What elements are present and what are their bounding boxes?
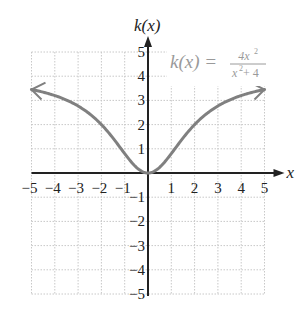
- x-tick-label: −4: [45, 180, 61, 196]
- y-tick-label: −4: [129, 262, 145, 278]
- x-tick-label: −2: [91, 180, 107, 196]
- formula-denominator: x: [231, 66, 238, 80]
- x-tick-label: 2: [191, 180, 199, 196]
- y-tick-label: −1: [129, 189, 145, 205]
- x-tick-label: −5: [22, 180, 38, 196]
- y-tick-label: 5: [138, 44, 146, 60]
- y-tick-label: 3: [138, 92, 146, 108]
- x-axis-arrow-icon: [274, 169, 285, 177]
- formula-lhs: k(x) =: [170, 51, 217, 73]
- x-tick-label: 4: [237, 180, 245, 196]
- x-tick-label: 1: [168, 180, 176, 196]
- formula-numerator-exp: 2: [254, 47, 258, 56]
- y-tick-label: −2: [129, 213, 145, 229]
- x-tick-label: 3: [214, 180, 222, 196]
- y-tick-label: 1: [138, 141, 146, 157]
- x-tick-label: 5: [261, 180, 269, 196]
- y-axis-arrow-icon: [144, 36, 152, 47]
- x-tick-label: −3: [68, 180, 84, 196]
- y-tick-label: 2: [138, 117, 146, 133]
- formula-denominator-rest: + 4: [243, 66, 259, 80]
- y-tick-label: −5: [129, 286, 145, 302]
- y-axis-label: k(x): [134, 16, 161, 35]
- y-tick-label: −3: [129, 238, 145, 254]
- x-axis-label: x: [286, 163, 295, 182]
- formula-numerator: 4x: [238, 49, 250, 63]
- y-tick-label: 4: [138, 68, 146, 84]
- chart: xk(x)−5−4−3−2−11234554321−1−2−3−4−5k(x) …: [0, 0, 303, 315]
